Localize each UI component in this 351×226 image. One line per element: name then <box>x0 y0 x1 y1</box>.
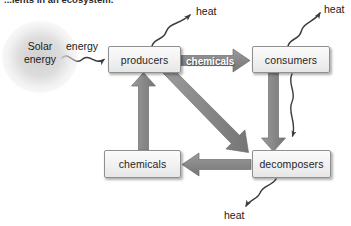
energy-flow-label: energy <box>66 40 98 52</box>
arrow-producers-to-heat <box>152 15 190 46</box>
node-chemicals-label: chemicals <box>119 158 167 170</box>
solar-energy-label: Solar energy <box>6 40 74 66</box>
node-consumers-label: consumers <box>265 54 317 66</box>
node-producers[interactable]: producers <box>108 46 181 73</box>
diagram-canvas: ...ients in an ecosystem. <box>0 0 351 226</box>
arrow-decomposers-to-heat <box>246 179 276 206</box>
arrow-consumers-to-decomposers <box>262 73 286 152</box>
heat-label-decomposers: heat <box>224 209 244 221</box>
node-producers-label: producers <box>121 54 169 66</box>
arrow-consumers-to-decomposers-squiggle <box>291 74 294 136</box>
node-decomposers[interactable]: decomposers <box>252 150 331 178</box>
solar-energy-line-2: energy <box>24 53 56 65</box>
node-consumers[interactable]: consumers <box>252 46 330 73</box>
node-decomposers-label: decomposers <box>259 158 323 170</box>
arrow-consumers-to-heat <box>288 13 320 46</box>
heat-label-producers: heat <box>196 5 216 17</box>
node-chemicals[interactable]: chemicals <box>104 150 181 178</box>
solar-energy-line-1: Solar <box>28 40 53 52</box>
arrow-chemicals-to-producers <box>132 73 156 151</box>
arrow-decomposers-to-chemicals <box>182 153 251 176</box>
heat-label-consumers: heat <box>324 3 344 15</box>
arrow-producers-to-decomposers <box>163 66 249 153</box>
chemicals-flow-label: chemicals <box>186 56 234 67</box>
